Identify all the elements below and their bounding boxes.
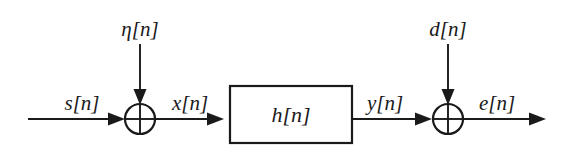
left-summing-junction — [125, 104, 155, 134]
signal-flow-diagram: h[n] s[n] η[n] x[n] y[n] d[n] e[n — [0, 0, 570, 164]
noise-input-arrowhead — [134, 89, 147, 105]
input-signal-arrowhead — [108, 113, 125, 126]
filter-output-label: y[n] — [365, 91, 403, 115]
noise-input-label: η[n] — [121, 17, 158, 41]
filter-output-arrowhead — [415, 113, 432, 126]
error-output-arrowhead — [529, 113, 546, 126]
error-output-label: e[n] — [479, 91, 515, 115]
desired-input-arrowhead — [442, 89, 455, 105]
right-summing-junction — [433, 104, 463, 134]
input-signal-label: s[n] — [64, 91, 99, 115]
desired-input-path — [442, 44, 455, 105]
filter-input-arrowhead — [207, 113, 224, 126]
desired-input-label: d[n] — [429, 17, 466, 41]
filter-block: h[n] — [230, 86, 352, 143]
filter-block-label: h[n] — [271, 102, 310, 127]
filter-input-label: x[n] — [171, 91, 208, 115]
noise-input-path — [134, 44, 147, 105]
block-diagram-canvas: h[n] s[n] η[n] x[n] y[n] d[n] e[n — [0, 0, 570, 164]
